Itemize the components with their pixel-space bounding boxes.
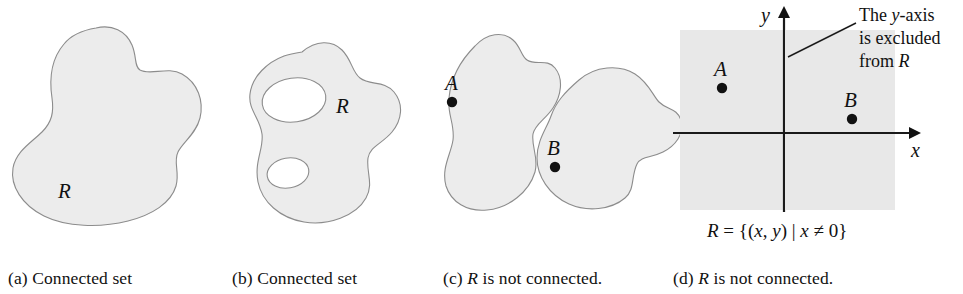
caption-c-text: is not connected. (483, 268, 603, 288)
x-axis-arrowhead (909, 127, 921, 139)
caption-a-text: Connected set (32, 268, 132, 288)
panel-d: x y A B The y-axis is excluded from R R … (673, 0, 963, 294)
point-dot-c-b (550, 162, 560, 172)
region-label-a: R (57, 179, 71, 203)
caption-d-tag: (d) (673, 268, 694, 288)
panel-c: A B (c) R is not connected. (443, 0, 673, 294)
caption-a-tag: (a) (8, 268, 28, 288)
annotation-line-1: The y-axis (859, 5, 934, 25)
caption-b-text: Connected set (257, 268, 357, 288)
region-label-b: R (335, 94, 349, 118)
point-dot-d-b (847, 114, 857, 124)
set-builder-notation: R = {(x, y) | x ≠ 0} (706, 220, 847, 242)
panel-b-diagram: R (228, 0, 443, 245)
panel-a-diagram: R (0, 0, 228, 245)
point-label-d-b: B (844, 88, 857, 112)
y-axis-label: y (759, 4, 770, 27)
caption-c-region: R (467, 268, 478, 288)
y-axis-arrowhead (778, 6, 790, 18)
caption-c-tag: (c) (443, 268, 463, 288)
caption-d-region: R (698, 268, 709, 288)
annotation-line-2: is excluded (859, 28, 940, 48)
caption-a: (a) Connected set (0, 269, 236, 288)
caption-b: (b) Connected set (228, 269, 447, 288)
point-label-c-b: B (547, 136, 560, 160)
region-blob-c-left (445, 34, 561, 210)
caption-b-tag: (b) (232, 268, 253, 288)
panel-b: R (b) Connected set (228, 0, 443, 294)
x-axis-label: x (910, 139, 920, 161)
region-blob-a (13, 27, 202, 226)
panel-a: R (a) Connected set (0, 0, 228, 294)
point-dot-d-a (717, 83, 727, 93)
shaded-region-left (680, 30, 783, 210)
point-label-d-a: A (712, 57, 727, 81)
panel-c-diagram: A B (443, 0, 673, 245)
point-label-c-a: A (443, 71, 458, 95)
region-blob-b (250, 43, 401, 223)
connected-sets-figure: R (a) Connected set R (b) Connected set … (0, 0, 963, 294)
panel-d-diagram: x y A B The y-axis is excluded from R R … (673, 0, 963, 245)
annotation-line-3: from R (859, 51, 910, 71)
caption-d: (d) R is not connected. (673, 269, 963, 288)
caption-c: (c) R is not connected. (443, 269, 673, 288)
caption-d-text: is not connected. (713, 268, 833, 288)
point-dot-c-a (447, 97, 457, 107)
